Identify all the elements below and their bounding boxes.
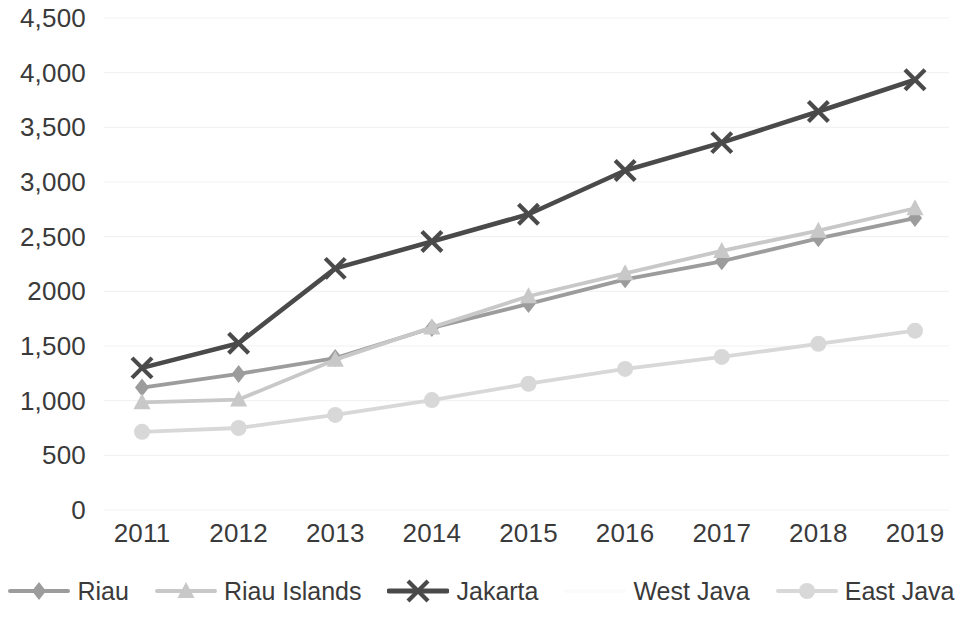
x-axis-tick-label: 2018: [789, 520, 848, 546]
data-point: [617, 361, 633, 377]
legend-swatch-diamond-icon: [8, 578, 70, 604]
data-point: [134, 424, 150, 440]
legend-marker: [32, 582, 46, 600]
y-axis-tick-label: 1,000: [20, 388, 86, 414]
legend-label: Riau: [77, 579, 128, 604]
x-axis-tick-label: 2011: [114, 520, 171, 546]
y-axis-tick-label: 2,500: [20, 224, 86, 250]
y-axis-tick-label: 3,000: [20, 169, 86, 195]
data-point: [521, 376, 537, 392]
series-jakarta: [132, 70, 925, 378]
series-east-java: [134, 323, 923, 440]
line-chart: 05001,0001,50020002,5003,0003,5004,0004,…: [0, 0, 963, 629]
data-point: [424, 392, 440, 408]
legend-label: Riau Islands: [224, 579, 362, 604]
legend-label: West Java: [633, 579, 749, 604]
y-axis-tick-label: 3,500: [20, 114, 86, 140]
x-axis-tick-label: 2014: [403, 520, 462, 546]
chart-legend: RiauRiau IslandsJakartaWest JavaEast Jav…: [0, 570, 963, 612]
legend-item-riau[interactable]: Riau: [8, 578, 128, 604]
y-axis-tick-label: 1,500: [20, 333, 86, 359]
legend-swatch-circle-icon: [776, 578, 838, 604]
data-point: [810, 336, 826, 352]
data-point: [714, 349, 730, 365]
data-point: [906, 199, 923, 215]
legend-label: East Java: [845, 579, 955, 604]
plot-area: [104, 18, 949, 510]
x-axis-tick-label: 2017: [692, 520, 751, 546]
legend-marker: [799, 583, 815, 599]
data-point: [232, 365, 246, 383]
x-axis: 201120122013201420152016201720182019: [104, 512, 949, 556]
series-layer: [104, 18, 949, 510]
y-axis-tick-label: 500: [42, 442, 86, 468]
y-axis: 05001,0001,50020002,5003,0003,5004,0004,…: [0, 0, 96, 529]
x-axis-tick-label: 2019: [886, 520, 945, 546]
y-axis-tick-label: 4,500: [20, 5, 86, 31]
legend-item-east-java[interactable]: East Java: [776, 578, 955, 604]
x-axis-tick-label: 2012: [209, 520, 268, 546]
series-line: [142, 80, 915, 368]
x-axis-tick-label: 2015: [499, 520, 558, 546]
y-axis-tick-label: 4,000: [20, 60, 86, 86]
y-axis-tick-label: 2000: [27, 278, 86, 304]
legend-swatch-plain-icon: [564, 578, 626, 604]
legend-label: Jakarta: [456, 579, 538, 604]
legend-swatch-triangle-icon: [155, 578, 217, 604]
data-point: [327, 407, 343, 423]
legend-swatch-x-icon: [387, 578, 449, 604]
data-point: [231, 420, 247, 436]
legend-item-west-java[interactable]: West Java: [564, 578, 749, 604]
data-point: [907, 323, 923, 339]
x-axis-tick-label: 2013: [306, 520, 365, 546]
legend-item-riau-islands[interactable]: Riau Islands: [155, 578, 362, 604]
legend-item-jakarta[interactable]: Jakarta: [387, 578, 538, 604]
y-axis-tick-label: 0: [71, 497, 86, 523]
x-axis-tick-label: 2016: [596, 520, 655, 546]
